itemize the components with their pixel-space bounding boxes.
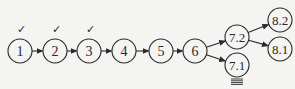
node-label: 8.1 <box>272 42 288 57</box>
node-8-1: 8.1 <box>268 37 292 61</box>
node-label: 4 <box>121 44 128 59</box>
check-mark-icon: ✓ <box>52 23 61 35</box>
arrow-6-to-7.2 <box>206 41 225 47</box>
arrow-6-to-7.1 <box>206 55 225 61</box>
node-4: 4 <box>112 39 136 63</box>
node-7-1: 7.1 <box>225 53 249 84</box>
check-mark-icon: ✓ <box>86 23 95 35</box>
node-3: 3✓ <box>77 23 101 63</box>
node-6: 6 <box>183 39 207 63</box>
arrow-7.2-to-8.1 <box>249 40 268 45</box>
node-2: 2✓ <box>43 23 67 63</box>
nodes-layer: 1✓2✓3✓4567.27.18.28.1 <box>8 8 292 84</box>
node-7-2: 7.2 <box>225 25 249 49</box>
flow-diagram: 1✓2✓3✓4567.27.18.28.1 <box>0 0 295 89</box>
node-label: 5 <box>158 44 165 59</box>
arrow-7.2-to-8.2 <box>248 25 268 33</box>
node-label: 6 <box>192 44 199 59</box>
node-label: 8.2 <box>272 13 288 28</box>
node-1: 1✓ <box>8 23 32 63</box>
node-label: 7.2 <box>229 30 245 45</box>
node-8-2: 8.2 <box>268 8 292 32</box>
check-mark-icon: ✓ <box>17 23 26 35</box>
node-5: 5 <box>149 39 173 63</box>
node-label: 1 <box>17 44 24 59</box>
node-label: 7.1 <box>229 58 245 73</box>
ground-hatch-icon <box>231 79 243 84</box>
node-label: 3 <box>86 44 93 59</box>
node-label: 2 <box>52 44 59 59</box>
